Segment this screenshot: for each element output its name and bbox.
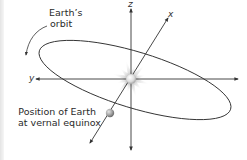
z-axis-label: z [128,0,133,9]
earth-label-line2: at vernal equinox [18,117,96,128]
orbit-pointer-arrow [26,26,47,55]
x-axis-label: x [168,9,173,19]
earth-icon [106,109,114,117]
sun-icon [126,74,136,84]
orbit-label-line1: Earth’s [49,7,82,18]
orbit-label: Earth’s orbit [49,7,82,29]
orbit-label-line2: orbit [49,18,82,29]
y-axis-label: y [29,73,34,83]
earth-label-line1: Position of Earth [18,106,96,117]
earth-position-label: Position of Earth at vernal equinox [18,106,96,128]
orbit-diagram [0,0,247,160]
